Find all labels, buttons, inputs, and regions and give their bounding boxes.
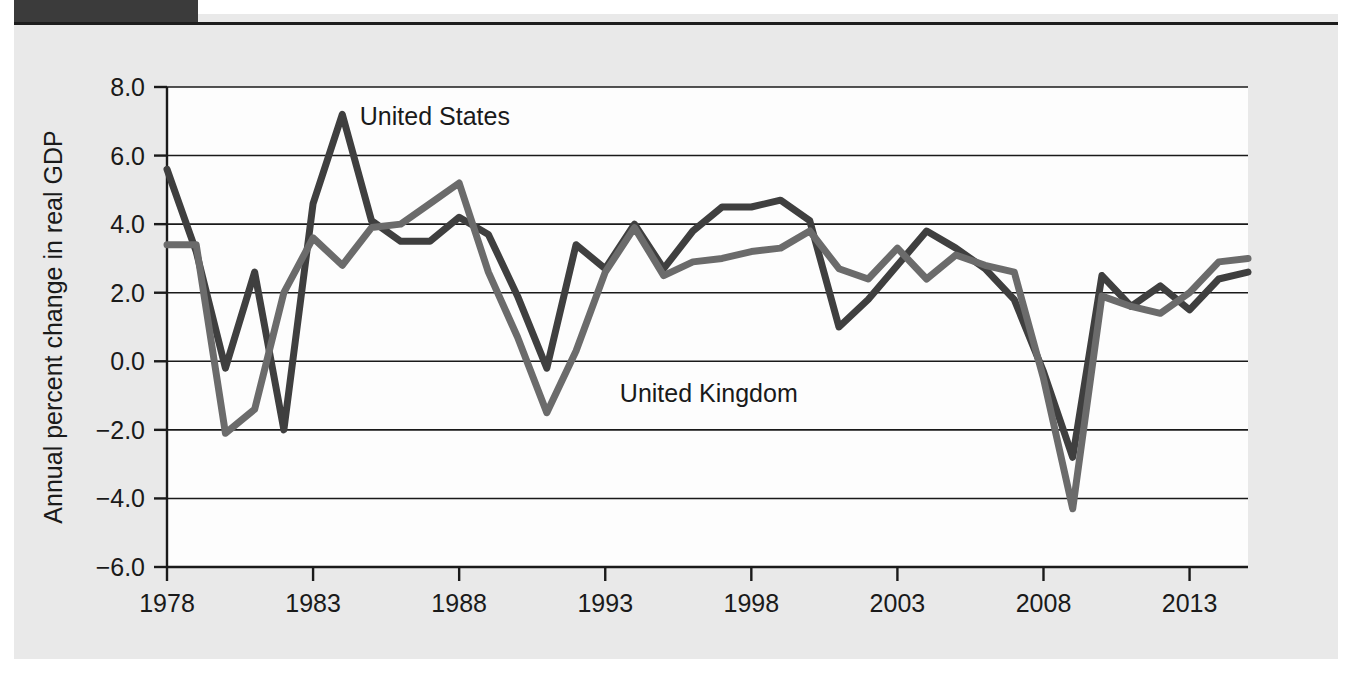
x-tick-label-3: 1993 — [577, 589, 633, 617]
y-tick-label-5: −2.0 — [96, 416, 145, 444]
y-tick-label-0: 8.0 — [110, 73, 145, 101]
x-tick-label-2: 1988 — [431, 589, 487, 617]
y-tick-label-2: 4.0 — [110, 210, 145, 238]
x-tick-label-4: 1998 — [724, 589, 780, 617]
y-tick-label-1: 6.0 — [110, 142, 145, 170]
x-tick-label-0: 1978 — [139, 589, 195, 617]
figure-container: 8.06.04.02.00.0−2.0−4.0−6.0 197819831988… — [0, 0, 1352, 673]
x-tick-label-1: 1983 — [285, 589, 341, 617]
x-tick-label-7: 2013 — [1162, 589, 1218, 617]
y-tick-label-3: 2.0 — [110, 279, 145, 307]
y-tick-label-6: −4.0 — [96, 484, 145, 512]
x-tick-label-6: 2008 — [1016, 589, 1072, 617]
x-tick-label-5: 2003 — [870, 589, 926, 617]
series-label-united-states: United States — [360, 102, 510, 130]
y-axis-tick-labels: 8.06.04.02.00.0−2.0−4.0−6.0 — [96, 73, 145, 581]
y-axis-title: Annual percent change in real GDP — [39, 130, 67, 523]
y-axis-title-text: Annual percent change in real GDP — [39, 130, 67, 523]
y-tick-label-4: 0.0 — [110, 347, 145, 375]
chart-svg: 8.06.04.02.00.0−2.0−4.0−6.0 197819831988… — [0, 0, 1352, 673]
gdp-line-chart: 8.06.04.02.00.0−2.0−4.0−6.0 197819831988… — [0, 0, 1352, 673]
series-label-united-kingdom: United Kingdom — [620, 379, 798, 407]
x-axis-tick-labels: 19781983198819931998200320082013 — [139, 589, 1217, 617]
y-tick-label-7: −6.0 — [96, 553, 145, 581]
